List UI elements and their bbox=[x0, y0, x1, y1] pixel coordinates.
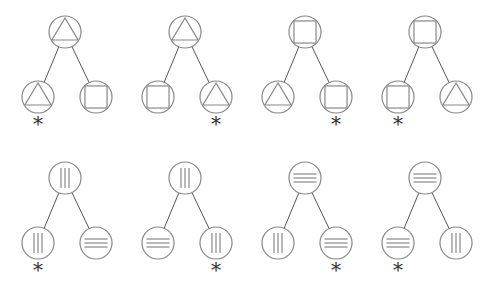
right-child-node bbox=[80, 227, 112, 259]
tree-1-2: * bbox=[142, 16, 232, 136]
left-child-node bbox=[382, 81, 414, 113]
root-node bbox=[49, 162, 81, 194]
tree-edge bbox=[164, 193, 179, 228]
asterisk-marker: * bbox=[393, 112, 403, 136]
node-circle bbox=[22, 81, 54, 113]
node-circle bbox=[200, 81, 232, 113]
node-circle bbox=[262, 81, 294, 113]
left-child-node bbox=[22, 227, 54, 259]
tree-diagram-svg: ******** bbox=[0, 0, 493, 285]
root-node bbox=[289, 16, 321, 48]
root-node bbox=[409, 162, 441, 194]
tree-2-4: * bbox=[382, 162, 472, 282]
right-child-node bbox=[440, 81, 472, 113]
tree-diagram-canvas: ******** bbox=[0, 0, 493, 285]
tree-edge bbox=[164, 47, 179, 82]
asterisk-marker: * bbox=[393, 258, 403, 282]
asterisk-marker: * bbox=[331, 258, 341, 282]
tree-1-1: * bbox=[22, 16, 112, 136]
left-child-node bbox=[262, 227, 294, 259]
tree-edge bbox=[72, 46, 89, 82]
tree-edge bbox=[404, 193, 419, 228]
node-circle bbox=[440, 81, 472, 113]
right-child-node bbox=[440, 227, 472, 259]
tree-edge bbox=[44, 47, 59, 82]
tree-edge bbox=[312, 46, 329, 82]
tree-edge bbox=[44, 193, 59, 228]
root-node bbox=[169, 16, 201, 48]
root-node bbox=[289, 162, 321, 194]
right-child-node bbox=[320, 81, 352, 113]
node-circle bbox=[169, 16, 201, 48]
right-child-node bbox=[80, 81, 112, 113]
left-child-node bbox=[22, 81, 54, 113]
right-child-node bbox=[320, 227, 352, 259]
root-node bbox=[169, 162, 201, 194]
left-child-node bbox=[262, 81, 294, 113]
tree-edge bbox=[432, 46, 449, 82]
root-node bbox=[49, 16, 81, 48]
asterisk-marker: * bbox=[211, 258, 221, 282]
left-child-node bbox=[142, 227, 174, 259]
tree-1-3: * bbox=[262, 16, 352, 136]
tree-edge bbox=[192, 192, 209, 228]
tree-edge bbox=[312, 192, 329, 228]
tree-2-3: * bbox=[262, 162, 352, 282]
left-child-node bbox=[382, 227, 414, 259]
root-node bbox=[409, 16, 441, 48]
tree-edge bbox=[72, 192, 89, 228]
asterisk-marker: * bbox=[331, 112, 341, 136]
tree-1-4: * bbox=[382, 16, 472, 136]
asterisk-marker: * bbox=[33, 258, 43, 282]
tree-edge bbox=[404, 47, 419, 82]
left-child-node bbox=[142, 81, 174, 113]
asterisk-marker: * bbox=[33, 112, 43, 136]
right-child-node bbox=[200, 227, 232, 259]
asterisk-marker: * bbox=[211, 112, 221, 136]
right-child-node bbox=[200, 81, 232, 113]
tree-edge bbox=[432, 192, 449, 228]
tree-edge bbox=[192, 46, 209, 82]
tree-2-1: * bbox=[22, 162, 112, 282]
node-circle bbox=[49, 16, 81, 48]
tree-edge bbox=[284, 47, 299, 82]
tree-2-2: * bbox=[142, 162, 232, 282]
tree-edge bbox=[284, 193, 299, 228]
